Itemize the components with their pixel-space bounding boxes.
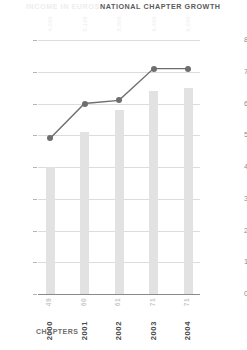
right-tick-label: 1000	[244, 258, 247, 266]
left-tick-mark	[33, 294, 37, 295]
bar-value-label: 5,800	[116, 16, 123, 32]
line-marker[interactable]	[185, 66, 191, 72]
left-tick-mark	[33, 72, 37, 73]
line-series	[38, 40, 200, 294]
right-tick-label: 0	[244, 290, 247, 298]
bar-value-label: 6,500	[185, 16, 192, 32]
x-value-label: 60	[80, 298, 88, 306]
x-year-label: 2003	[149, 321, 158, 340]
x-year-label: 2001	[80, 321, 89, 340]
bar-value-label: 5,100	[82, 16, 89, 32]
left-tick-mark	[33, 262, 37, 263]
bar-value-label: 4,000	[47, 16, 54, 32]
right-tick-label: 4000	[244, 163, 247, 171]
left-tick-mark	[33, 199, 37, 200]
chapters-axis-caption: CHAPTERS	[36, 328, 79, 335]
tab-national-chapter-growth[interactable]: NATIONAL CHAPTER GROWTH	[100, 2, 221, 11]
x-year-label: 2004	[183, 321, 192, 340]
chart-header: INCOME IN EUROS NATIONAL CHAPTER GROWTH	[0, 0, 247, 14]
left-tick-mark	[33, 167, 37, 168]
bar-value-label: 6,400	[151, 16, 158, 32]
x-value-label: 61	[114, 298, 122, 306]
x-year-label: 2002	[114, 321, 123, 340]
right-tick-label: 6000	[244, 100, 247, 108]
line-path	[50, 69, 188, 139]
x-value-label: 71	[183, 298, 191, 306]
right-tick-label: 7000	[244, 68, 247, 76]
right-tick-label: 2000	[244, 227, 247, 235]
left-tick-mark	[33, 135, 37, 136]
right-tick-label: 5000	[244, 131, 247, 139]
x-value-label: 49	[45, 298, 53, 306]
left-tick-mark	[33, 231, 37, 232]
left-tick-mark	[33, 40, 37, 41]
x-value-label: 71	[149, 298, 157, 306]
right-tick-label: 3000	[244, 195, 247, 203]
tab-income-in-euros[interactable]: INCOME IN EUROS	[26, 2, 100, 11]
line-marker[interactable]	[82, 101, 88, 107]
left-tick-mark	[33, 104, 37, 105]
chart-plot-area: 01020304050607080 0100020003000400050006…	[38, 40, 200, 294]
line-marker[interactable]	[151, 66, 157, 72]
right-tick-label: 8000	[244, 36, 247, 44]
gridline	[38, 294, 200, 295]
